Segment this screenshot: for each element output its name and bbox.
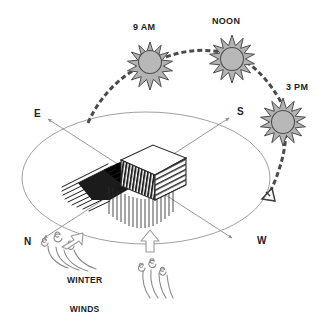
sun-path-diagram (0, 0, 322, 313)
wind-arrow-northwest (62, 233, 83, 249)
compass-label-north: N (24, 236, 32, 247)
sun-noon (210, 35, 255, 83)
sun-9am (128, 42, 173, 90)
winter-winds-line-2: WINDS (67, 305, 102, 313)
sun-label-9am: 9 AM (133, 22, 155, 32)
wind-arrow-south (141, 230, 159, 252)
sun-label-3pm: 3 PM (286, 82, 308, 92)
sun-label-noon: NOON (212, 16, 240, 26)
winter-winds-line-1: WINTER (67, 276, 102, 286)
sun-path-segment-afternoon (246, 62, 282, 104)
building-block (62, 145, 186, 228)
compass-label-west: W (257, 235, 267, 246)
compass-label-east: E (34, 108, 41, 119)
sun-3pm (261, 98, 306, 146)
compass-label-south: S (237, 106, 244, 117)
winter-winds-label: WINTER WINDS (67, 257, 102, 313)
wind-swirls-south (138, 259, 173, 298)
diagram-canvas: 9 AM NOON 3 PM E S N W WINTER WINDS (0, 0, 322, 313)
wind-group-south (138, 230, 173, 298)
